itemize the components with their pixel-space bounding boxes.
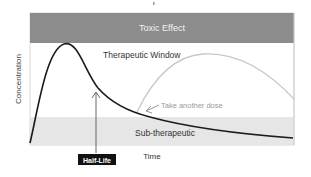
sub-therapeutic-label: Sub-therapeutic bbox=[135, 128, 196, 138]
y-axis-label: Concentration bbox=[14, 54, 23, 104]
toxic-effect-label: Toxic Effect bbox=[139, 23, 185, 33]
pharmacokinetics-diagram: Toxic Effect Sub-therapeutic Therapeutic… bbox=[0, 0, 311, 177]
half-life-label: Half-Life bbox=[83, 157, 111, 164]
take-another-dose-label: Take another dose bbox=[161, 101, 223, 110]
therapeutic-window-label: Therapeutic Window bbox=[103, 50, 181, 60]
cropped-title-mark bbox=[153, 2, 155, 5]
x-axis-label: Time bbox=[143, 152, 161, 161]
